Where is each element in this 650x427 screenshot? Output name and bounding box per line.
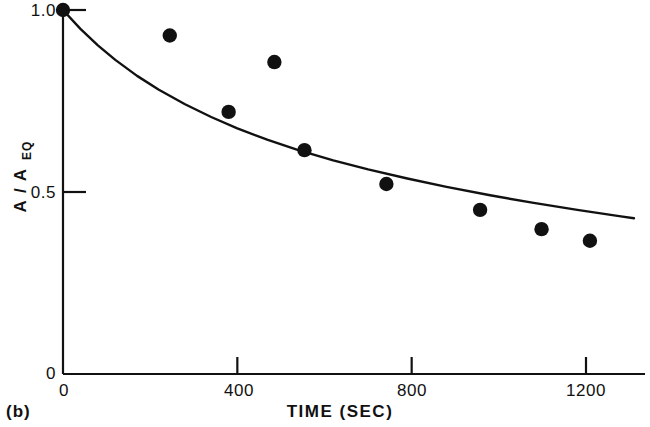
data-point-marker: [267, 55, 281, 69]
x-tick-label-800: 800: [397, 381, 427, 400]
data-point-marker: [297, 143, 311, 157]
y-tick-label-0point5: 0.5: [31, 183, 56, 202]
data-point-marker: [473, 203, 487, 217]
data-point-marker: [221, 105, 235, 119]
y-axis-title-subscript: EQ: [20, 141, 34, 160]
x-tick-label-1200: 1200: [566, 381, 606, 400]
chart-background: [0, 0, 650, 427]
x-tick-label-0: 0: [59, 381, 69, 400]
data-point-marker: [163, 28, 177, 42]
data-point-marker: [583, 234, 597, 248]
data-point-marker: [379, 177, 393, 191]
panel-label: (b): [6, 402, 31, 421]
data-point-marker: [534, 222, 548, 236]
chart-figure: 1.0 0.5 0 0 400 800 1200 A / A EQ TIME (…: [0, 0, 650, 427]
y-axis-title-main: A / A: [11, 168, 30, 213]
x-tick-label-400: 400: [224, 381, 254, 400]
x-axis-title: TIME (SEC): [287, 402, 394, 421]
data-point-marker: [56, 3, 70, 17]
y-tick-label-1: 1.0: [31, 1, 56, 20]
y-tick-label-0: 0: [46, 364, 56, 383]
